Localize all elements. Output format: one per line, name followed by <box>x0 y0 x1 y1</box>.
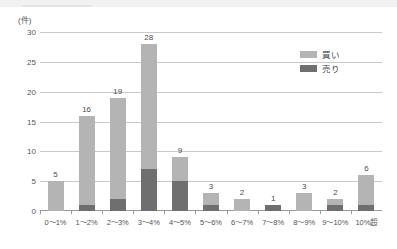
x-axis-tick <box>320 211 321 214</box>
bar-value-label: 1 <box>271 194 275 203</box>
bar-column[interactable] <box>110 98 126 211</box>
x-axis-category-label: 1〜2% <box>76 216 98 227</box>
bar-segment-buy[interactable] <box>110 98 126 199</box>
bar-value-label: 19 <box>113 87 122 96</box>
bar-segment-sell[interactable] <box>79 205 95 211</box>
bar-value-label: 9 <box>178 146 182 155</box>
bar-value-label: 5 <box>53 170 57 179</box>
bar-column[interactable] <box>48 181 64 211</box>
legend-label-buy: 買い <box>322 48 340 60</box>
x-axis-tick <box>351 211 352 214</box>
gridline <box>40 32 382 33</box>
bar-column[interactable] <box>296 193 312 211</box>
bar-segment-sell[interactable] <box>327 205 343 211</box>
bar-segment-buy[interactable] <box>79 116 95 206</box>
legend-swatch-buy-icon <box>300 51 317 58</box>
y-axis-tick-label: 15 <box>27 117 36 126</box>
bar-column[interactable] <box>234 199 250 211</box>
x-axis-category-label: 3〜4% <box>138 216 160 227</box>
bar-segment-sell[interactable] <box>203 205 219 211</box>
x-axis-tick <box>102 211 103 214</box>
x-axis-category-label: 0〜1% <box>45 216 67 227</box>
bar-value-label: 3 <box>209 182 213 191</box>
chart-legend: 買い 売り <box>300 48 378 76</box>
y-axis-tick-label: 25 <box>27 57 36 66</box>
gridline <box>40 92 382 93</box>
bar-value-label: 2 <box>240 188 244 197</box>
bar-column[interactable] <box>141 44 157 211</box>
bar-value-label: 28 <box>144 33 153 42</box>
bar-column[interactable] <box>358 175 374 211</box>
y-axis-tick-labels: 051015202530 <box>16 32 36 211</box>
x-axis-category-label: 7〜8% <box>262 216 284 227</box>
x-axis-category-label: 10%超 <box>355 216 377 227</box>
bar-column[interactable] <box>327 199 343 211</box>
y-axis-tick-label: 0 <box>32 207 36 216</box>
x-axis-category-label: 6〜7% <box>231 216 253 227</box>
bar-value-label: 3 <box>302 182 306 191</box>
bar-segment-buy[interactable] <box>172 157 188 181</box>
x-axis-tick <box>164 211 165 214</box>
x-axis-category-label: 5〜6% <box>200 216 222 227</box>
x-axis-tick <box>195 211 196 214</box>
y-axis-tick-label: 10 <box>27 147 36 156</box>
bar-column[interactable] <box>79 116 95 211</box>
bar-column[interactable] <box>265 205 281 211</box>
bar-segment-buy[interactable] <box>203 193 219 205</box>
y-axis-tick-label: 5 <box>32 177 36 186</box>
scan-artifact-band-edge <box>22 5 92 7</box>
legend-label-sell: 売り <box>322 62 340 74</box>
bar-segment-sell[interactable] <box>141 169 157 211</box>
bar-segment-sell[interactable] <box>358 205 374 211</box>
x-axis-tick <box>289 211 290 214</box>
bar-segment-sell[interactable] <box>265 205 281 211</box>
bar-segment-buy[interactable] <box>358 175 374 205</box>
bar-segment-sell[interactable] <box>110 199 126 211</box>
x-axis-tick <box>258 211 259 214</box>
chart-container: (件) 051015202530 51619289321326 0〜1%1〜2%… <box>0 0 397 249</box>
bar-value-label: 2 <box>333 188 337 197</box>
bar-column[interactable] <box>172 157 188 211</box>
bar-segment-buy[interactable] <box>141 44 157 169</box>
bar-segment-buy[interactable] <box>234 199 250 211</box>
bar-segment-sell[interactable] <box>172 181 188 211</box>
x-axis-category-label: 8〜9% <box>293 216 315 227</box>
x-axis-tick <box>227 211 228 214</box>
bar-value-label: 16 <box>82 105 91 114</box>
bar-value-label: 6 <box>364 164 368 173</box>
x-axis-tick <box>71 211 72 214</box>
legend-swatch-sell-icon <box>300 65 317 72</box>
x-axis-category-label: 9〜10% <box>322 216 348 227</box>
legend-item-buy: 買い <box>300 48 378 60</box>
y-axis-unit-label: (件) <box>18 14 31 25</box>
bar-segment-buy[interactable] <box>296 193 312 211</box>
x-axis-category-label: 2〜3% <box>107 216 129 227</box>
x-axis-tick <box>40 211 41 214</box>
legend-item-sell: 売り <box>300 62 378 74</box>
x-axis-tick <box>133 211 134 214</box>
bar-column[interactable] <box>203 193 219 211</box>
x-axis-category-label: 4〜5% <box>169 216 191 227</box>
bar-segment-buy[interactable] <box>48 181 64 211</box>
y-axis-tick-label: 20 <box>27 87 36 96</box>
y-axis-tick-label: 30 <box>27 28 36 37</box>
